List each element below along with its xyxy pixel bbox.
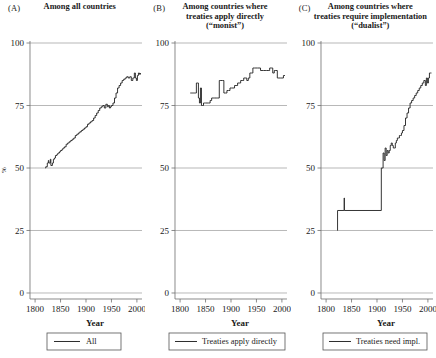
panel-a-xticklabel-1900: 1900 [77, 304, 95, 314]
panel-c: (C) Among countries where treaties requi… [291, 0, 436, 358]
panel-c-legend: Treaties need impl. [323, 333, 427, 350]
panel-b-xticklabels: 18001850190019502000 [171, 304, 290, 314]
panel-b-legend-label: Treaties apply directly [202, 337, 278, 346]
panel-c-xticklabel-1850: 1850 [342, 304, 360, 314]
panel-a-gridlines [30, 43, 142, 293]
panel-a-axis [26, 41, 141, 302]
panel-b-xticklabel-1900: 1900 [222, 304, 240, 314]
panel-a-yticklabel-0: 0 [19, 288, 24, 298]
panel-b-yticklabels: 0255075100 [156, 38, 170, 298]
panel-b-series-line [191, 68, 286, 105]
panel-a: (A) Among all countries 0255075100 18001… [0, 0, 145, 358]
panel-a-yticklabel-25: 25 [15, 226, 24, 236]
panel-b-xticklabel-1850: 1850 [197, 304, 215, 314]
panel-a-xticklabel-1850: 1850 [52, 304, 70, 314]
panel-c-yticklabels: 0255075100 [301, 38, 315, 298]
panel-b-yticklabel-50: 50 [160, 163, 169, 173]
panel-c-gridlines [321, 43, 433, 293]
panel-c-yticklabel-50: 50 [306, 163, 315, 173]
panel-a-plot: 0255075100 18001850190019502000 Year % A… [0, 0, 145, 358]
panel-a-yticklabel-100: 100 [11, 38, 25, 48]
panel-b-xticklabel-2000: 2000 [273, 304, 290, 314]
panel-b-plot: 0255075100 18001850190019502000 Year Tre… [145, 0, 290, 358]
panel-c-svg: 0255075100 18001850190019502000 Year Tre… [291, 0, 436, 358]
panel-b: (B) Among countries where treaties apply… [145, 0, 290, 358]
panel-c-series-line [337, 73, 431, 230]
panel-c-plot: 0255075100 18001850190019502000 Year Tre… [291, 0, 436, 358]
panel-a-xaxis-label: Year [86, 318, 104, 328]
panel-c-yticklabel-0: 0 [310, 288, 315, 298]
panel-b-yticklabel-25: 25 [160, 226, 169, 236]
panel-c-xticklabel-2000: 2000 [419, 304, 436, 314]
panel-a-yticklabel-50: 50 [15, 163, 24, 173]
panel-b-xaxis-label: Year [231, 318, 249, 328]
panel-b-yticklabel-0: 0 [165, 288, 170, 298]
panel-b-axis [172, 41, 287, 302]
panel-c-yticklabel-100: 100 [301, 38, 315, 48]
panel-a-series-line [45, 73, 140, 168]
panel-b-xticklabel-1800: 1800 [171, 304, 189, 314]
panel-c-xticklabel-1800: 1800 [317, 304, 335, 314]
panel-a-xticklabels: 18001850190019502000 [26, 304, 145, 314]
panel-b-svg: 0255075100 18001850190019502000 Year Tre… [145, 0, 290, 358]
panel-c-xticklabel-1950: 1950 [393, 304, 411, 314]
panel-c-legend-label: Treaties need impl. [356, 337, 420, 346]
panel-b-yticklabel-75: 75 [160, 101, 169, 111]
panel-a-yticklabels: 0255075100 [11, 38, 25, 298]
panel-b-gridlines [175, 43, 287, 293]
panel-a-yticklabel-75: 75 [15, 101, 24, 111]
panel-c-yticklabel-25: 25 [306, 226, 315, 236]
panel-c-yticklabel-75: 75 [306, 101, 315, 111]
panel-a-xticklabel-2000: 2000 [128, 304, 145, 314]
panel-c-xaxis-label: Year [377, 318, 395, 328]
panel-c-xticklabels: 18001850190019502000 [317, 304, 436, 314]
panel-b-yticklabel-100: 100 [156, 38, 170, 48]
panel-a-xticklabel-1950: 1950 [102, 304, 120, 314]
figure-root: (A) Among all countries 0255075100 18001… [0, 0, 436, 358]
panel-c-xticklabel-1900: 1900 [368, 304, 386, 314]
panel-a-legend: All [47, 333, 121, 350]
panel-a-svg: 0255075100 18001850190019502000 Year % A… [0, 0, 145, 358]
panel-a-yaxis-label: % [0, 167, 8, 173]
panel-a-legend-label: All [86, 337, 97, 346]
panel-a-xticklabel-1800: 1800 [26, 304, 44, 314]
panel-b-xticklabel-1950: 1950 [248, 304, 266, 314]
panel-c-axis [317, 41, 432, 302]
panel-b-legend: Treaties apply directly [169, 333, 285, 350]
